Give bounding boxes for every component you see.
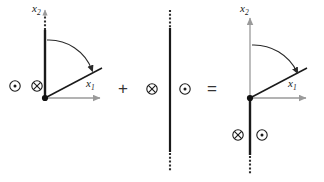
figure-canvas: x2 x1 x2 x1 + = [0, 0, 324, 182]
origin-node-right [247, 95, 253, 101]
diagram-vector-layer [0, 0, 324, 182]
rotation-arc-arrow-left [47, 40, 92, 70]
dot-circle-symbol-middle [180, 84, 190, 94]
plus-operator: + [118, 80, 128, 97]
cross-circle-symbol-left [32, 81, 42, 91]
x2-label-right: x2 [240, 3, 249, 17]
x1-label-right: x1 [288, 78, 297, 92]
middle-diagram [147, 10, 190, 172]
rotated-slip-line-right [250, 68, 307, 98]
dot-circle-symbol-right [257, 130, 267, 140]
equals-operator: = [207, 80, 217, 97]
right-diagram [233, 18, 307, 174]
cross-circle-symbol-right [233, 130, 243, 140]
rotation-arc-arrow-right [252, 45, 297, 72]
x2-label-left: x2 [32, 3, 41, 17]
dot-circle-symbol-left [10, 81, 20, 91]
cross-circle-symbol-middle [147, 84, 157, 94]
origin-node-left [42, 95, 48, 101]
x1-label-left: x1 [86, 78, 95, 92]
